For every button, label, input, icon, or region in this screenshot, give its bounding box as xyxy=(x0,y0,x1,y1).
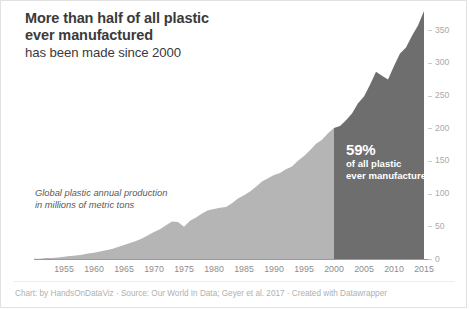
footer-credit: Chart: by HandsOnDataViz · Source: Our W… xyxy=(15,288,387,299)
x-tick-label-1960: 1960 xyxy=(77,264,111,275)
y-tick-mark-300 xyxy=(428,63,432,64)
x-axis-line xyxy=(34,259,432,260)
y-tick-mark-0 xyxy=(428,259,432,260)
y-tick-label-350: 350 xyxy=(435,26,449,35)
y-tick-label-50: 50 xyxy=(435,222,445,231)
y-tick-label-300: 300 xyxy=(435,58,449,67)
annotation-percent: 59% xyxy=(346,141,458,158)
y-tick-label-200: 200 xyxy=(435,124,449,133)
footer-divider xyxy=(14,281,455,282)
annotation-line-1: of all plastic xyxy=(346,158,458,170)
area-chart-svg xyxy=(34,11,424,260)
x-tick-label-1995: 1995 xyxy=(287,264,321,275)
x-tick-label-1970: 1970 xyxy=(137,264,171,275)
plot-note-line-1: Global plastic annual production xyxy=(35,187,167,199)
plot-note-line-2: in millions of metric tons xyxy=(35,199,167,211)
y-tick-mark-350 xyxy=(428,30,432,31)
x-tick-label-1980: 1980 xyxy=(197,264,231,275)
y-tick-label-250: 250 xyxy=(435,91,449,100)
x-tick-label-1975: 1975 xyxy=(167,264,201,275)
plot-note: Global plastic annual production in mill… xyxy=(35,187,167,211)
y-tick-mark-250 xyxy=(428,96,432,97)
x-tick-label-1955: 1955 xyxy=(47,264,81,275)
y-tick-mark-100 xyxy=(428,194,432,195)
x-tick-label-1985: 1985 xyxy=(227,264,261,275)
y-tick-mark-50 xyxy=(428,226,432,227)
x-tick-label-2005: 2005 xyxy=(347,264,381,275)
x-tick-label-1990: 1990 xyxy=(257,264,291,275)
plot-area xyxy=(34,11,424,260)
annotation-line-2: ever manufactured xyxy=(346,170,458,182)
highlight-annotation: 59% of all plastic ever manufactured xyxy=(346,141,458,182)
x-tick-label-2000: 2000 xyxy=(317,264,351,275)
x-tick-label-2010: 2010 xyxy=(377,264,411,275)
x-tick-label-2015: 2015 xyxy=(407,264,441,275)
chart-card: More than half of all plastic ever manuf… xyxy=(0,0,467,308)
x-tick-label-1965: 1965 xyxy=(107,264,141,275)
y-tick-mark-200 xyxy=(428,128,432,129)
y-tick-label-0: 0 xyxy=(435,255,440,264)
y-tick-label-100: 100 xyxy=(435,189,449,198)
